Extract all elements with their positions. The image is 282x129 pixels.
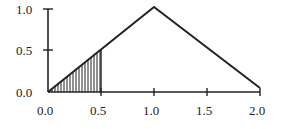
x-tick-label: 1.0 — [143, 104, 159, 117]
x-tick-label: 0.0 — [37, 104, 53, 117]
y-tick-label: 0.0 — [16, 86, 32, 99]
x-tick-label: 2.0 — [249, 104, 265, 117]
x-tick-label: 1.5 — [196, 104, 212, 117]
y-tick-label: 0.5 — [16, 44, 32, 57]
y-tick-label: 1.0 — [16, 3, 32, 16]
x-tick-label: 0.5 — [90, 104, 106, 117]
